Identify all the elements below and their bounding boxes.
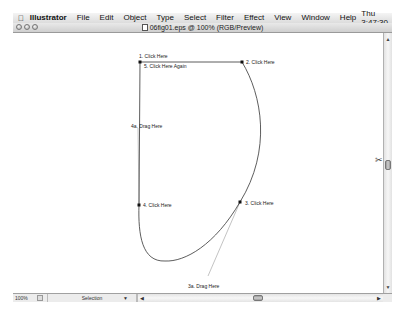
label-2-click-here: 2. Click Here <box>246 59 275 65</box>
scroll-right-arrow-icon[interactable]: ▶ <box>377 294 381 302</box>
zoom-menu-button[interactable] <box>37 295 43 301</box>
label-5-click-here-again: 5. Click Here Again <box>144 63 187 69</box>
status-dropdown-arrow-icon[interactable]: ▼ <box>123 294 128 302</box>
horizontal-scrollbar[interactable]: ◀ ▶ <box>137 294 383 302</box>
path-drawing: 1. Click Here 5. Click Here Again 2. Cli… <box>0 0 405 322</box>
vertical-scroll-thumb[interactable] <box>385 160 391 170</box>
label-4-click-here: 4. Click Here <box>143 202 172 208</box>
anchor-point-1[interactable] <box>139 61 142 64</box>
label-3-click-here: 3. Click Here <box>245 200 274 206</box>
scroll-up-arrow-icon[interactable]: ▲ <box>384 35 392 43</box>
horizontal-scroll-thumb[interactable] <box>253 295 263 301</box>
bezier-path[interactable] <box>139 62 261 261</box>
artboard-canvas[interactable]: 1. Click Here 5. Click Here Again 2. Cli… <box>13 33 383 293</box>
status-bar: 100% Selection ▼ ◀ ▶ <box>13 293 392 302</box>
anchor-point-4[interactable] <box>138 204 141 207</box>
scroll-down-arrow-icon[interactable]: ▼ <box>384 283 392 291</box>
zoom-level-field[interactable]: 100% <box>15 294 28 302</box>
anchor-point-3[interactable] <box>239 201 242 204</box>
vertical-scrollbar[interactable]: ▲ ▼ <box>383 33 392 293</box>
scroll-left-arrow-icon[interactable]: ◀ <box>140 294 144 302</box>
label-3a-drag-here: 3a. Drag Here <box>188 283 220 289</box>
label-1-click-here: 1. Click Here <box>139 53 168 59</box>
label-4a-drag-here: 4a. Drag Here <box>131 123 163 129</box>
direction-handle-3a <box>208 202 240 276</box>
anchor-point-2[interactable] <box>241 61 244 64</box>
scissors-cursor-icon: ✂ <box>375 155 383 165</box>
